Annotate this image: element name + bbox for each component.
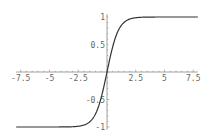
x-tick-label: 2.5 <box>129 74 144 83</box>
y-tick-label: 0.5 <box>91 41 106 50</box>
x-tick-label: 5 <box>162 74 167 83</box>
x-tick-label: -7.5 <box>11 74 30 83</box>
y-tick-label: -0.5 <box>86 96 105 105</box>
tick-labels: -7.5-5-2.52.557.510.5-0.5-1 <box>11 13 201 132</box>
y-tick-label: -1 <box>95 123 105 132</box>
x-tick-label: -5 <box>45 74 55 83</box>
chart: -7.5-5-2.52.557.510.5-0.5-1 <box>0 0 211 139</box>
x-tick-label: 7.5 <box>186 74 201 83</box>
chart-svg: -7.5-5-2.52.557.510.5-0.5-1 <box>0 0 211 139</box>
x-tick-label: -2.5 <box>69 74 88 83</box>
y-tick-label: 1 <box>100 13 105 22</box>
